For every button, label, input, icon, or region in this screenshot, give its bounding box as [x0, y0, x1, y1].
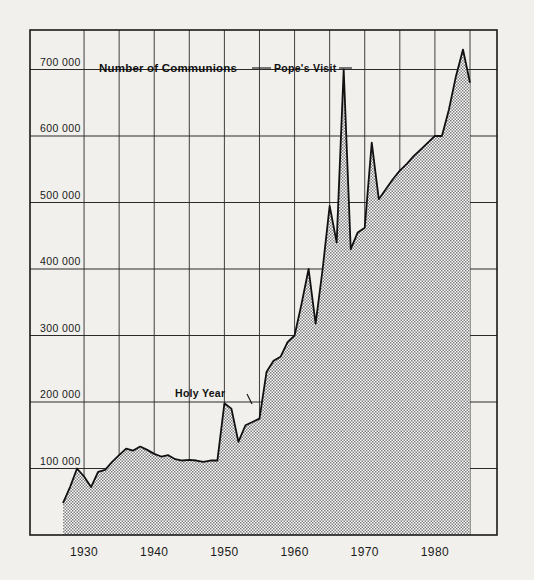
x-tick-label: 1960: [280, 545, 308, 559]
y-tick-label: 200 000: [40, 388, 81, 400]
chart-title: Number of Communions: [99, 62, 237, 74]
x-tick-label: 1940: [140, 545, 168, 559]
communions-area-chart: 100 000200 000300 000400 000500 000600 0…: [0, 0, 534, 580]
y-tick-label: 400 000: [40, 255, 81, 267]
x-tick-label: 1970: [351, 545, 379, 559]
y-tick-label: 100 000: [40, 455, 81, 467]
y-tick-label: 700 000: [40, 56, 81, 68]
x-tick-label: 1930: [70, 545, 98, 559]
y-tick-label: 300 000: [40, 322, 81, 334]
holy-year-label: Holy Year: [175, 387, 225, 399]
x-tick-label: 1980: [421, 545, 449, 559]
y-tick-label: 500 000: [40, 189, 81, 201]
x-tick-label: 1950: [210, 545, 238, 559]
popes-visit-label: Pope's Visit: [274, 62, 337, 74]
chart-container: 100 000200 000300 000400 000500 000600 0…: [0, 0, 534, 580]
y-tick-label: 600 000: [40, 122, 81, 134]
